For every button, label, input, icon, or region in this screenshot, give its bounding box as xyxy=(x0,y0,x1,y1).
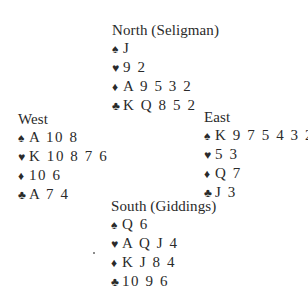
stray-dot xyxy=(93,252,95,254)
west-hearts-cards: K 10 8 7 6 xyxy=(29,148,108,164)
south-hearts: ♥A Q J 4 xyxy=(111,234,216,253)
north-clubs: ♣K Q 8 5 2 xyxy=(112,96,219,115)
west-hand: West ♠A 10 8 ♥K 10 8 7 6 ♦10 6 ♣A 7 4 xyxy=(18,110,108,204)
south-hand: South (Giddings) ♠Q 6 ♥A Q J 4 ♦K J 8 4 … xyxy=(111,197,216,291)
east-hearts-cards: 5 3 xyxy=(215,146,239,162)
north-diamonds-cards: A 9 5 3 2 xyxy=(123,78,192,94)
spade-icon: ♠ xyxy=(112,40,123,58)
east-clubs: ♣J 3 xyxy=(204,183,308,202)
south-clubs: ♣10 9 6 xyxy=(111,272,216,291)
west-clubs: ♣A 7 4 xyxy=(18,185,108,204)
spade-icon: ♠ xyxy=(204,127,215,145)
west-diamonds-cards: 10 6 xyxy=(29,167,62,183)
diamond-icon: ♦ xyxy=(111,254,122,272)
west-clubs-cards: A 7 4 xyxy=(29,186,70,202)
east-spades-cards: K 9 7 5 4 3 2 xyxy=(215,127,308,143)
north-diamonds: ♦A 9 5 3 2 xyxy=(112,77,219,96)
south-spades-cards: Q 6 xyxy=(122,216,149,232)
heart-icon: ♥ xyxy=(204,146,215,164)
west-hearts: ♥K 10 8 7 6 xyxy=(18,147,108,166)
east-hand: East ♠K 9 7 5 4 3 2 ♥5 3 ♦Q 7 ♣J 3 xyxy=(204,108,308,202)
east-diamonds-cards: Q 7 xyxy=(215,165,242,181)
club-icon: ♣ xyxy=(111,273,122,291)
east-label: East xyxy=(204,108,308,126)
north-hand: North (Seligman) ♠J ♥9 2 ♦A 9 5 3 2 ♣K Q… xyxy=(112,21,219,115)
north-spades: ♠J xyxy=(112,39,219,58)
east-clubs-cards: J 3 xyxy=(215,184,237,200)
diamond-icon: ♦ xyxy=(204,165,215,183)
south-label: South (Giddings) xyxy=(111,197,216,215)
north-label: North (Seligman) xyxy=(112,21,219,39)
north-spades-cards: J xyxy=(123,40,130,56)
west-spades: ♠A 10 8 xyxy=(18,128,108,147)
heart-icon: ♥ xyxy=(112,59,123,77)
south-spades: ♠Q 6 xyxy=(111,215,216,234)
west-label: West xyxy=(18,110,108,128)
south-clubs-cards: 10 9 6 xyxy=(122,273,169,289)
club-icon: ♣ xyxy=(112,97,123,115)
heart-icon: ♥ xyxy=(111,235,122,253)
east-spades: ♠K 9 7 5 4 3 2 xyxy=(204,126,308,145)
north-hearts-cards: 9 2 xyxy=(123,59,147,75)
west-spades-cards: A 10 8 xyxy=(29,129,79,145)
east-diamonds: ♦Q 7 xyxy=(204,164,308,183)
west-diamonds: ♦10 6 xyxy=(18,166,108,185)
east-hearts: ♥5 3 xyxy=(204,145,308,164)
north-clubs-cards: K Q 8 5 2 xyxy=(123,97,197,113)
south-diamonds-cards: K J 8 4 xyxy=(122,254,176,270)
south-hearts-cards: A Q J 4 xyxy=(122,235,179,251)
north-hearts: ♥9 2 xyxy=(112,58,219,77)
spade-icon: ♠ xyxy=(18,129,29,147)
spade-icon: ♠ xyxy=(111,216,122,234)
club-icon: ♣ xyxy=(18,186,29,204)
diamond-icon: ♦ xyxy=(18,167,29,185)
south-diamonds: ♦K J 8 4 xyxy=(111,253,216,272)
heart-icon: ♥ xyxy=(18,148,29,166)
diamond-icon: ♦ xyxy=(112,78,123,96)
